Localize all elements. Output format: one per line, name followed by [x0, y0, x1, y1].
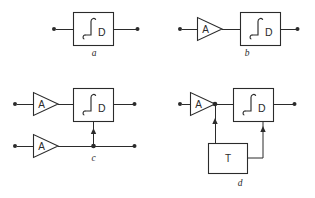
panel-b-integrator-subscript: D: [265, 26, 273, 38]
panel-b-caption: b: [245, 48, 250, 58]
panel-b-output-terminal[interactable]: [296, 27, 300, 31]
panel-b: A D b: [178, 13, 300, 59]
panel-a-input-terminal[interactable]: [52, 27, 56, 31]
panel-a-caption: a: [92, 48, 97, 58]
panel-d: A D T d: [178, 89, 297, 189]
panel-c-input-terminal-bottom[interactable]: [13, 144, 17, 148]
panel-c: A D A c: [13, 89, 137, 164]
panel-d-input-terminal[interactable]: [178, 102, 182, 106]
panel-d-feedback-arrow-icon: [260, 126, 265, 132]
circuit-diagram-canvas: D a A D b: [0, 0, 315, 198]
panel-d-output-terminal[interactable]: [293, 102, 297, 106]
panel-a-integrator-box[interactable]: [74, 13, 114, 46]
panel-d-caption: d: [238, 178, 243, 188]
panel-c-caption: c: [91, 153, 96, 163]
panel-c-amplifier-label-bottom: A: [38, 141, 45, 152]
panel-c-control-arrow-icon: [91, 128, 96, 134]
panel-c-junction-dot[interactable]: [91, 144, 96, 149]
panel-b-input-terminal[interactable]: [178, 27, 182, 31]
panel-a-output-terminal[interactable]: [136, 27, 140, 31]
panel-d-integrator-box[interactable]: [234, 89, 274, 122]
panel-d-transfer-label: T: [225, 153, 231, 164]
figure-root: D a A D b: [0, 0, 315, 198]
panel-b-amplifier-label: A: [202, 24, 209, 35]
panel-a: D a: [52, 13, 140, 59]
panel-c-input-terminal-top[interactable]: [13, 102, 17, 106]
panel-b-integrator-box[interactable]: [241, 13, 281, 46]
panel-d-tap-arrow-icon: [212, 118, 217, 124]
panel-d-integrator-subscript: D: [258, 102, 266, 114]
panel-a-integrator-subscript: D: [98, 26, 106, 38]
panel-c-output-terminal-bottom[interactable]: [133, 144, 137, 148]
panel-d-amplifier-label: A: [195, 99, 202, 110]
panel-d-feedback-wire: [248, 122, 264, 159]
panel-c-amplifier-label-top: A: [38, 99, 45, 110]
panel-c-integrator-box[interactable]: [74, 89, 114, 122]
panel-c-output-terminal-top[interactable]: [133, 102, 137, 106]
panel-c-integrator-subscript: D: [98, 102, 106, 114]
